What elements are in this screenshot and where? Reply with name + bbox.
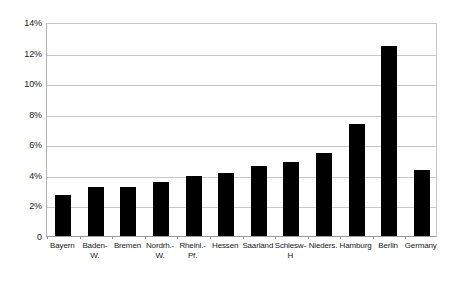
y-axis-tick-label: 8% — [0, 110, 42, 119]
bar[interactable] — [218, 173, 234, 236]
bar-slot — [243, 24, 276, 236]
bar[interactable] — [153, 182, 169, 236]
x-axis-tick — [308, 236, 309, 239]
bar[interactable] — [55, 195, 71, 236]
bar[interactable] — [88, 187, 104, 236]
bar[interactable] — [251, 166, 267, 236]
y-axis-tick-label: 12% — [0, 49, 42, 58]
bar-slot — [177, 24, 210, 236]
bar-slot — [145, 24, 178, 236]
y-axis-tick-label: 0 — [0, 233, 42, 242]
x-axis-category-label-line: H — [271, 251, 310, 261]
bar-slot — [47, 24, 80, 236]
bar-chart: 02%4%6%8%10%12%14% BayernBaden-W.BremenN… — [0, 0, 457, 287]
y-axis-tick-labels: 02%4%6%8%10%12%14% — [0, 0, 42, 287]
x-axis-tick — [373, 236, 374, 239]
bar-slot — [275, 24, 308, 236]
x-axis-category-labels: BayernBaden-W.BremenNordrh.-W.Rheinl.-Pf… — [46, 241, 437, 281]
bar-series — [47, 24, 436, 236]
x-axis-tick — [177, 236, 178, 239]
x-axis-tick — [47, 236, 48, 239]
y-axis-tick-label: 14% — [0, 19, 42, 28]
x-axis-category-label-line: W. — [76, 251, 115, 261]
bar-slot — [210, 24, 243, 236]
x-axis-tick — [340, 236, 341, 239]
x-axis-category-label-line: Pf. — [173, 251, 212, 261]
bar[interactable] — [381, 46, 397, 236]
bar[interactable] — [316, 153, 332, 236]
plot-area — [46, 23, 437, 237]
x-axis-tick — [275, 236, 276, 239]
y-axis-tick-label: 2% — [0, 202, 42, 211]
bar-slot — [373, 24, 406, 236]
bar-slot — [340, 24, 373, 236]
y-axis-tick-label: 6% — [0, 141, 42, 150]
x-axis-tick — [243, 236, 244, 239]
bar-slot — [308, 24, 341, 236]
x-axis-tick — [210, 236, 211, 239]
y-axis-tick-label: 4% — [0, 171, 42, 180]
bar[interactable] — [414, 170, 430, 236]
x-axis-tick — [80, 236, 81, 239]
bar-slot — [405, 24, 438, 236]
bar[interactable] — [283, 162, 299, 236]
x-axis-tick — [145, 236, 146, 239]
bar[interactable] — [120, 187, 136, 236]
x-axis-tick — [112, 236, 113, 239]
bar-slot — [112, 24, 145, 236]
bar-slot — [80, 24, 113, 236]
x-axis-category-label: Germany — [401, 241, 440, 251]
bar[interactable] — [349, 124, 365, 236]
x-axis-category-label-line: Germany — [401, 241, 440, 251]
x-axis-tick — [405, 236, 406, 239]
bar[interactable] — [186, 176, 202, 236]
y-axis-tick-label: 10% — [0, 80, 42, 89]
